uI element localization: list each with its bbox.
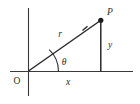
x-component-label: x <box>65 77 71 87</box>
radius-label: r <box>58 29 62 39</box>
point-p-label: P <box>106 7 113 17</box>
origin-label: O <box>14 76 21 86</box>
y-component-label: y <box>107 40 113 50</box>
point-p-dot <box>98 18 103 23</box>
polar-coordinate-diagram: O P r θ x y <box>0 0 140 104</box>
angle-theta-label: θ <box>62 57 67 67</box>
diagram-canvas: O P r θ x y <box>0 0 140 104</box>
